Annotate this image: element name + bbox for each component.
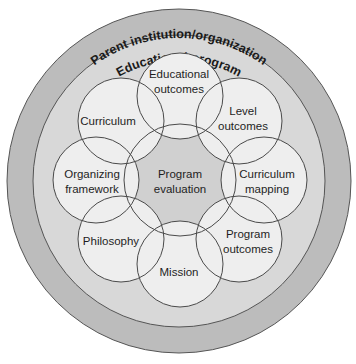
program-evaluation-diagram: Parent institution/organization Educatio… — [0, 0, 356, 364]
label-program-outcomes-2: outcomes — [223, 243, 273, 255]
label-curriculum-mapping-2: mapping — [245, 183, 289, 195]
label-curriculum-mapping: Curriculum — [239, 168, 295, 180]
label-organizing-framework-2: framework — [65, 183, 119, 195]
label-program-outcomes: Program — [226, 228, 270, 240]
label-philosophy: Philosophy — [83, 235, 140, 247]
label-curriculum: Curriculum — [80, 115, 136, 127]
label-educational-outcomes-2: outcomes — [154, 83, 204, 95]
label-organizing-framework: Organizing — [64, 168, 120, 180]
label-program-evaluation-2: evaluation — [154, 183, 206, 195]
label-program-evaluation: Program — [158, 168, 202, 180]
label-educational-outcomes: Educational — [149, 68, 209, 80]
label-level-outcomes: Level — [229, 105, 257, 117]
label-mission: Mission — [160, 266, 199, 278]
label-level-outcomes-2: outcomes — [218, 120, 268, 132]
